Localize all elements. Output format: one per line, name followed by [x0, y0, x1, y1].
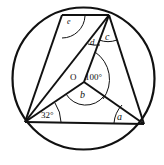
center-point-label: O: [70, 73, 77, 82]
chord-topright-bottomleft: [25, 15, 109, 122]
angle-b-label: b: [80, 90, 85, 100]
angle-d-label: d: [90, 38, 95, 47]
radius-center-bottomleft: [25, 82, 84, 122]
central-angle-100-label: 100°: [85, 73, 102, 82]
angle-a-label: a: [117, 112, 122, 122]
base-angle-32-label: 32°: [41, 111, 54, 120]
angle-e-label: e: [67, 18, 71, 26]
geometry-canvas: [0, 0, 164, 165]
radius-center-bottomright: [84, 82, 144, 124]
main-circle: [13, 8, 155, 150]
geometry-figure: O 100° 32° a b c d e: [0, 0, 164, 165]
chord-topright-bottomright: [109, 15, 144, 124]
chord-base-bottomleft-bottomright: [25, 122, 144, 124]
angle-arc-b: [66, 94, 104, 105]
angle-arc-32deg: [55, 103, 61, 122]
angle-c-label: c: [105, 32, 109, 42]
angle-arc-e: [62, 16, 85, 38]
